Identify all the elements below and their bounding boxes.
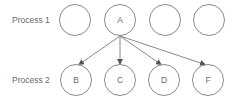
node-d-label: D <box>161 75 167 85</box>
node-process1-4 <box>194 5 225 36</box>
node-b-label: B <box>73 75 79 85</box>
node-d: D <box>149 65 180 96</box>
node-f-label: F <box>205 75 210 85</box>
edge-a-to-d <box>120 36 161 65</box>
node-c-label: C <box>117 75 123 85</box>
node-a-label: A <box>117 15 123 25</box>
diagram-canvas: A B C D F <box>0 0 235 104</box>
node-process1-1 <box>60 5 91 36</box>
edge-a-to-b <box>79 36 120 65</box>
node-a: A <box>105 5 136 36</box>
edges <box>79 36 205 65</box>
process-diagram: Process 1 Process 2 A <box>0 0 235 104</box>
node-process1-3 <box>150 5 181 36</box>
node-f: F <box>193 65 224 96</box>
node-c: C <box>105 65 136 96</box>
node-b: B <box>61 65 92 96</box>
edge-a-to-f <box>120 36 205 65</box>
